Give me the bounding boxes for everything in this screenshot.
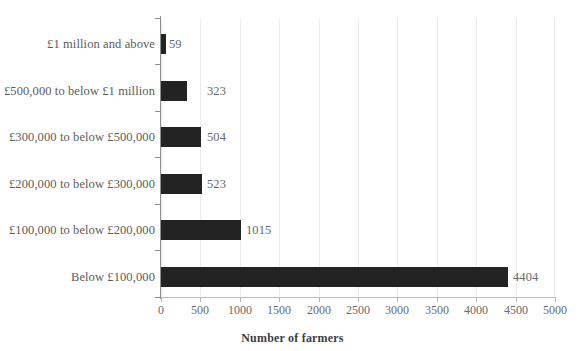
bar-2[interactable] [161, 127, 201, 147]
y-axis-tick [155, 204, 161, 205]
category-label-2: £300,000 to below £500,000 [0, 130, 155, 145]
gridline-0 [161, 18, 162, 297]
x-tick-label-7: 3500 [425, 303, 449, 318]
x-axis-tick [397, 297, 398, 302]
value-label-3: 523 [207, 177, 226, 192]
x-axis-tick [240, 297, 241, 302]
gridline-3000 [397, 18, 398, 297]
bar-5[interactable] [161, 267, 508, 287]
gridline-2000 [319, 18, 320, 297]
x-tick-label-1: 500 [191, 303, 209, 318]
x-tick-label-3: 1500 [267, 303, 291, 318]
gridline-4000 [476, 18, 477, 297]
gridline-5000 [554, 18, 555, 297]
category-label-3: £200,000 to below £300,000 [0, 177, 155, 192]
x-axis-tick [476, 297, 477, 302]
gridline-2500 [358, 18, 359, 297]
y-axis-tick [155, 250, 161, 251]
y-axis-tick [155, 111, 161, 112]
x-axis-tick [161, 297, 162, 302]
x-tick-label-10: 5000 [543, 303, 567, 318]
x-axis-tick [358, 297, 359, 302]
x-axis-title: Number of farmers [0, 331, 585, 346]
bar-3[interactable] [161, 174, 202, 194]
bar-1[interactable] [161, 81, 187, 101]
plot-area [161, 18, 555, 297]
x-axis-tick [437, 297, 438, 302]
y-axis-tick [155, 18, 161, 19]
category-label-4: £100,000 to below £200,000 [0, 223, 155, 238]
x-axis-tick [516, 297, 517, 302]
category-label-1: £500,000 to below £1 million [0, 84, 155, 99]
x-tick-label-2: 1000 [228, 303, 252, 318]
gridline-3500 [437, 18, 438, 297]
cropped-title-sliver [22, 0, 282, 3]
value-label-1: 323 [207, 84, 226, 99]
gridline-1500 [279, 18, 280, 297]
value-label-0: 59 [169, 37, 182, 52]
gridline-4500 [516, 18, 517, 297]
x-tick-label-0: 0 [158, 303, 164, 318]
value-label-4: 1015 [246, 223, 271, 238]
chart-screenshot: £1 million and above £500,000 to below £… [0, 0, 585, 351]
value-label-2: 504 [207, 130, 226, 145]
x-tick-label-6: 3000 [385, 303, 409, 318]
x-tick-label-5: 2500 [346, 303, 370, 318]
x-axis-tick [555, 297, 556, 302]
x-tick-label-9: 4500 [504, 303, 528, 318]
category-label-0: £1 million and above [0, 37, 155, 52]
x-tick-label-4: 2000 [307, 303, 331, 318]
gridline-1000 [240, 18, 241, 297]
x-axis-tick [200, 297, 201, 302]
y-axis-tick [155, 64, 161, 65]
gridline-500 [200, 18, 201, 297]
bar-0[interactable] [161, 34, 166, 54]
value-label-5: 4404 [513, 270, 538, 285]
bar-4[interactable] [161, 220, 241, 240]
x-axis-tick [279, 297, 280, 302]
x-axis-tick [319, 297, 320, 302]
y-axis-tick [155, 157, 161, 158]
x-tick-label-8: 4000 [464, 303, 488, 318]
category-label-5: Below £100,000 [0, 270, 155, 285]
